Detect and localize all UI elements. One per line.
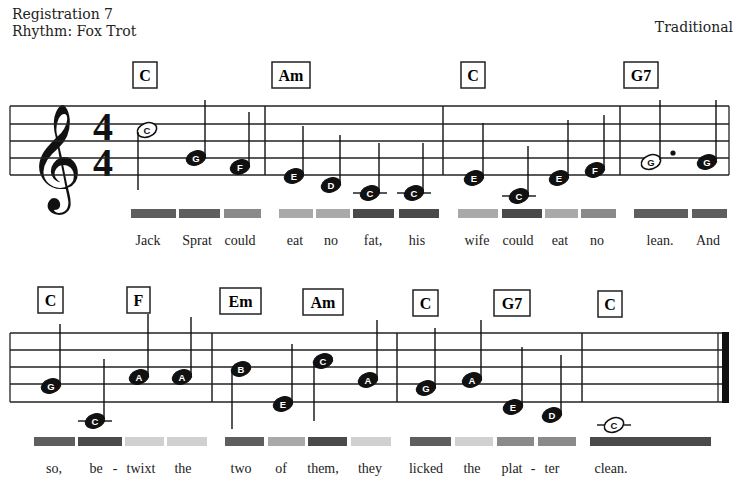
time-signature-bottom: 4	[93, 140, 113, 185]
color-bar	[125, 437, 164, 446]
note-letter: G	[47, 381, 54, 392]
time-signature: 4 4	[93, 104, 113, 185]
note-c: C	[135, 120, 159, 190]
note-letter: E	[291, 171, 297, 182]
chord-label: G7	[631, 67, 651, 84]
note-f: F	[583, 115, 607, 180]
color-bar	[581, 209, 616, 218]
color-bar	[225, 437, 264, 446]
sheet-music-score: 𝄞 4 4 CAmCG7CGFEDCCECEFGGJackSpratcoulde…	[0, 0, 739, 500]
note-letter: G	[647, 157, 654, 168]
lyric-word: fat,	[364, 233, 382, 248]
chord-symbol: F	[127, 287, 150, 313]
lyric-word: eat	[552, 233, 568, 248]
chord-symbol: Em	[220, 288, 261, 314]
note-c: C	[78, 359, 112, 431]
note-e: E	[462, 123, 486, 188]
lyric-word: so,	[46, 461, 62, 476]
note-letter: C	[411, 188, 418, 199]
note-c: C	[311, 351, 335, 421]
note-c: C	[502, 146, 536, 206]
color-bar	[353, 209, 394, 218]
color-bar	[167, 437, 207, 446]
color-bar	[316, 209, 350, 218]
note-letter: F	[592, 165, 598, 176]
chord-symbol: G7	[624, 62, 658, 88]
note-letter: D	[328, 180, 335, 191]
color-bar	[692, 209, 727, 218]
chord-label: C	[45, 292, 57, 309]
chord-label: C	[467, 67, 479, 84]
augmentation-dot	[670, 150, 675, 155]
note-letter: C	[144, 125, 151, 136]
chord-symbol: C	[133, 62, 157, 88]
chord-label: C	[604, 296, 616, 313]
lyric-word: Sprat	[182, 233, 212, 248]
note-b: B	[229, 359, 253, 429]
lyric-word: the	[174, 461, 191, 476]
chord-symbol: C	[461, 62, 485, 88]
color-bar	[455, 437, 493, 446]
note-g: G	[184, 100, 208, 168]
color-bar	[458, 209, 498, 218]
note-g: G	[695, 100, 719, 172]
note-letter: C	[516, 191, 523, 202]
chord-label: Em	[229, 293, 254, 310]
chord-symbol: G7	[494, 290, 530, 316]
color-bar	[131, 209, 176, 218]
lyric-word: be	[89, 461, 102, 476]
note-c: C	[597, 415, 631, 435]
color-bar	[34, 437, 75, 446]
note-c: C	[353, 143, 387, 203]
note-letter: E	[510, 402, 516, 413]
lyric-word: wife	[465, 233, 490, 248]
note-letter: C	[367, 188, 374, 199]
color-bar	[545, 209, 578, 218]
lyric-word: could	[224, 233, 255, 248]
chord-symbol: Am	[303, 289, 343, 315]
note-letter: C	[320, 356, 327, 367]
chord-label: C	[420, 295, 432, 312]
lyric-word: could	[502, 233, 533, 248]
color-bar	[410, 437, 451, 446]
chord-label: Am	[279, 67, 305, 84]
lyric-word: no	[324, 233, 338, 248]
lyric-word: ter	[545, 461, 560, 476]
lyric-word: plat	[502, 461, 523, 476]
color-bar	[502, 209, 542, 218]
chord-symbol: C	[598, 291, 622, 317]
lyric-word: no	[590, 233, 604, 248]
svg-text:𝄞: 𝄞	[28, 103, 82, 215]
note-letter: E	[556, 173, 562, 184]
note-letter: E	[471, 173, 477, 184]
chord-symbol: C	[413, 290, 438, 316]
chord-symbol: C	[38, 287, 63, 313]
final-barline-thick	[722, 332, 729, 403]
note-d: D	[540, 355, 564, 425]
note-letter: E	[280, 399, 286, 410]
lyric-word: them,	[307, 461, 339, 476]
color-bar	[634, 209, 688, 218]
chord-label: Am	[311, 294, 337, 311]
note-e: E	[547, 120, 571, 188]
lyric-word: the	[463, 461, 480, 476]
color-bar	[279, 209, 313, 218]
color-bar	[224, 209, 261, 218]
note-e: E	[271, 344, 295, 414]
note-letter: A	[365, 375, 372, 386]
color-bar	[590, 437, 711, 446]
lyric-word: his	[409, 233, 425, 248]
note-letter: D	[549, 410, 556, 421]
lyric-word: they	[358, 461, 382, 476]
color-bar	[268, 437, 305, 446]
note-letter: A	[179, 372, 186, 383]
note-letter: C	[92, 416, 99, 427]
lyric-word: of	[275, 461, 287, 476]
note-letter: F	[237, 162, 243, 173]
note-letter: G	[703, 157, 710, 168]
lyric-word: -	[113, 461, 118, 476]
note-g: G	[414, 328, 438, 398]
note-g: G	[39, 324, 63, 396]
chord-label: C	[139, 67, 151, 84]
note-e: E	[501, 347, 525, 417]
